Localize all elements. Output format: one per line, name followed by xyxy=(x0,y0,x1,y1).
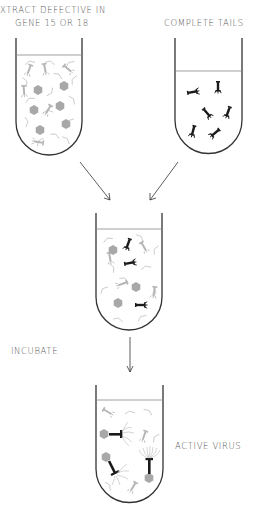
diagram-canvas xyxy=(0,0,258,513)
virus-particle xyxy=(102,452,129,485)
active-virus-tube xyxy=(96,385,163,503)
extract-tube xyxy=(16,38,82,155)
virus-particle xyxy=(100,422,134,446)
complete-tails-tube xyxy=(175,38,242,154)
arrow-extract-to-mixture xyxy=(80,162,110,200)
arrow-tails-to-mixture xyxy=(150,162,178,200)
virus-particle xyxy=(139,446,160,483)
mixture-tube xyxy=(96,213,162,330)
arrow-incubate xyxy=(127,337,133,372)
